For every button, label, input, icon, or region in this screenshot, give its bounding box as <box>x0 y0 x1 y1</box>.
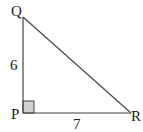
vertex-label-r: R <box>131 108 141 124</box>
side-length-pq: 6 <box>10 57 18 73</box>
side-length-pr: 7 <box>73 116 81 132</box>
vertex-label-q: Q <box>11 3 22 19</box>
triangle-diagram: Q P R 6 7 <box>0 0 143 132</box>
side-qr-hypotenuse <box>23 17 131 113</box>
vertex-label-p: P <box>11 106 19 122</box>
right-angle-marker <box>23 101 34 113</box>
